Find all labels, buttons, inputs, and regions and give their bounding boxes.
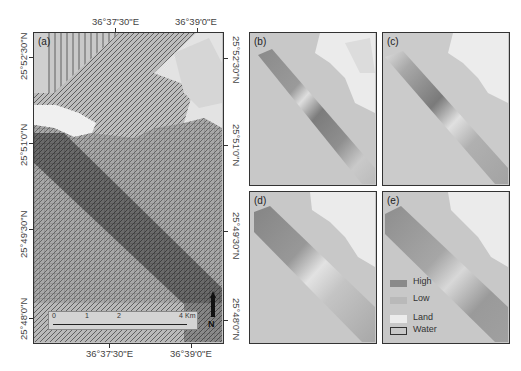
map-b-graphic xyxy=(250,33,375,184)
scale-bar: 0 1 2 4 Km xyxy=(48,311,198,330)
right-y-tick-2: 25°51'0"N xyxy=(231,124,242,166)
legend-swatch-water xyxy=(390,327,407,335)
legend-label-water: Water xyxy=(413,324,437,334)
top-x-tick-1: 36°37'30"E xyxy=(92,16,139,27)
panel-label-c: (c) xyxy=(387,36,399,47)
map-c-graphic xyxy=(383,33,508,184)
legend-label-land: Land xyxy=(413,312,433,322)
left-y-tick-4: 25°48'0"N xyxy=(18,298,29,340)
legend-label-high: High xyxy=(413,276,432,286)
scale-tick-2: 2 xyxy=(117,312,121,319)
legend-swatch-high xyxy=(390,280,407,287)
left-y-tick-1: 25°52'30"N xyxy=(18,32,29,80)
north-arrow-label: N xyxy=(208,319,215,329)
map-frame-e: (e) High Low Land Water xyxy=(382,191,510,344)
left-y-tick-2: 25°51'0"N xyxy=(18,124,29,166)
map-frame-d: (d) xyxy=(249,191,377,344)
legend-swatch-land xyxy=(390,315,407,323)
map-frame-c: (c) xyxy=(382,32,510,186)
panel-label-b: (b) xyxy=(254,36,266,47)
bottom-x-tick-1: 36°37'30"E xyxy=(86,348,133,359)
legend: High Low Land Water xyxy=(388,275,468,339)
left-y-tick-3: 25°49'30"N xyxy=(18,210,29,258)
scale-tick-4: 4 xyxy=(179,312,183,319)
right-y-tick-4: 25°48'0"N xyxy=(231,298,242,340)
north-arrow: N xyxy=(207,291,219,331)
scale-tick-1: 1 xyxy=(85,312,89,319)
right-y-tick-1: 25°52'30"N xyxy=(231,36,242,84)
scale-tick-0: 0 xyxy=(52,312,56,319)
scale-unit: Km xyxy=(185,312,196,319)
north-arrow-shaft xyxy=(211,297,215,317)
map-a-graphic xyxy=(34,33,222,342)
top-x-tick-2: 36°39'0"E xyxy=(175,16,217,27)
bottom-x-tick-2: 36°39'0"E xyxy=(170,348,212,359)
panel-label-e: (e) xyxy=(387,195,399,206)
map-d-graphic xyxy=(250,192,375,342)
map-frame-b: (b) xyxy=(249,32,377,186)
legend-swatch-low xyxy=(390,297,407,304)
legend-label-low: Low xyxy=(413,293,430,303)
map-frame-a: (a) 0 1 2 4 Km N xyxy=(33,32,224,344)
right-y-tick-3: 25°49'30"N xyxy=(231,212,242,260)
panel-label-a: (a) xyxy=(38,36,50,47)
panel-label-d: (d) xyxy=(254,195,266,206)
scale-bar-line xyxy=(53,324,187,325)
